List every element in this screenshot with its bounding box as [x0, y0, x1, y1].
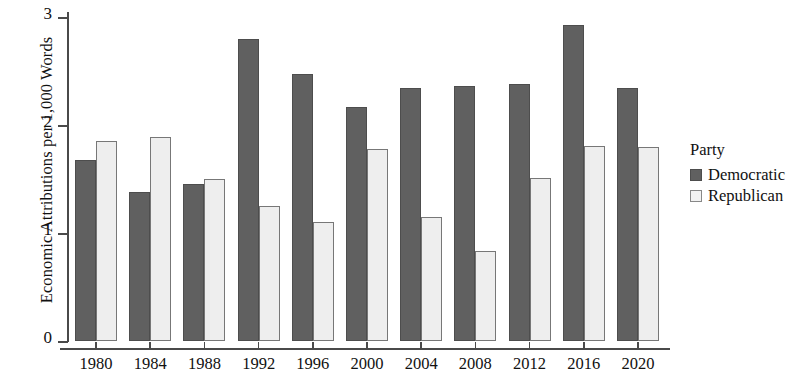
x-tick-1996: [312, 342, 314, 349]
bar-democratic-1992: [238, 39, 259, 341]
x-tick-label-2004: 2004: [391, 356, 451, 373]
bar-democratic-2016: [563, 25, 584, 341]
x-tick-2000: [366, 342, 368, 349]
bar-republican-1992: [259, 206, 280, 341]
bar-republican-1996: [313, 222, 334, 341]
x-tick-label-1980: 1980: [66, 356, 126, 373]
x-tick-label-2016: 2016: [554, 356, 614, 373]
bar-democratic-2004: [400, 88, 421, 341]
x-tick-label-2012: 2012: [500, 356, 560, 373]
bar-democratic-1980: [75, 160, 96, 341]
legend-title: Party: [690, 140, 790, 160]
bar-democratic-2000: [346, 107, 367, 341]
bar-republican-2004: [421, 217, 442, 341]
legend-item-republican[interactable]: Republican: [690, 187, 790, 206]
bar-democratic-1984: [129, 192, 150, 341]
bar-republican-2012: [530, 178, 551, 341]
legend-items: DemocraticRepublican: [690, 166, 790, 206]
x-tick-1980: [95, 342, 97, 349]
legend-item-democratic[interactable]: Democratic: [690, 166, 790, 185]
bars-layer: [0, 0, 791, 341]
x-tick-label-1988: 1988: [174, 356, 234, 373]
x-tick-2020: [637, 342, 639, 349]
y-tick-0: 0: [58, 341, 68, 343]
x-tick-1984: [149, 342, 151, 349]
bar-democratic-1996: [292, 74, 313, 341]
x-tick-1988: [204, 342, 206, 349]
bar-republican-1988: [204, 179, 225, 341]
bar-republican-2008: [475, 251, 496, 341]
bar-democratic-2020: [617, 88, 638, 341]
x-tick-label-1992: 1992: [229, 356, 289, 373]
legend-label: Republican: [708, 187, 783, 206]
x-tick-2008: [475, 342, 477, 349]
x-tick-2012: [529, 342, 531, 349]
x-axis-line: [60, 348, 670, 350]
x-tick-label-2000: 2000: [337, 356, 397, 373]
bar-democratic-1988: [183, 184, 204, 341]
x-tick-label-2008: 2008: [445, 356, 505, 373]
bar-republican-2000: [367, 149, 388, 341]
bar-chart: Economic Attributions per 1,000 Words 01…: [0, 0, 791, 384]
legend-swatch-icon-republican: [690, 190, 702, 202]
x-tick-1992: [258, 342, 260, 349]
x-tick-label-1996: 1996: [283, 356, 343, 373]
legend-label: Democratic: [708, 166, 785, 185]
bar-republican-2016: [584, 146, 605, 341]
bar-republican-2020: [638, 147, 659, 341]
bar-democratic-2012: [509, 84, 530, 341]
x-tick-2016: [583, 342, 585, 349]
legend-swatch-icon-democratic: [690, 169, 702, 181]
bar-republican-1984: [150, 137, 171, 341]
x-tick-label-1984: 1984: [120, 356, 180, 373]
x-tick-label-2020: 2020: [608, 356, 668, 373]
x-tick-2004: [420, 342, 422, 349]
bar-republican-1980: [96, 141, 117, 341]
bar-democratic-2008: [454, 86, 475, 341]
legend: Party DemocraticRepublican: [690, 140, 790, 208]
